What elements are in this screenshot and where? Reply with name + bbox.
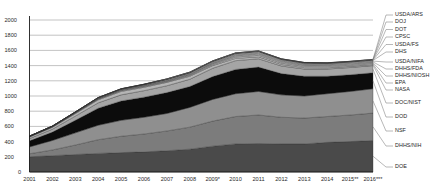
legend-item-dhhs-niosh[interactable]: DHHS/NIOSH xyxy=(395,73,429,78)
x-axis-tick-label: 2016*** xyxy=(364,176,384,182)
x-axis-tick-label: 2011 xyxy=(252,176,264,182)
legend-leader-line xyxy=(373,64,393,83)
legend-leader-line xyxy=(373,127,393,146)
legend-item-nsf[interactable]: NSF xyxy=(395,128,406,133)
x-axis-tick-label: 2007 xyxy=(161,176,173,182)
legend-item-dod[interactable]: DOD xyxy=(395,114,407,119)
y-axis-tick-label: 200 xyxy=(5,154,14,160)
legend-item-doe[interactable]: DOE xyxy=(395,164,407,169)
y-axis-tick-label: 400 xyxy=(5,139,14,145)
y-axis-tick-label: 1800 xyxy=(5,32,17,38)
y-axis-tick-label: 0 xyxy=(18,169,21,175)
legend-item-doc-nist[interactable]: DOC/NIST xyxy=(395,100,421,105)
x-axis-tick-label: 2005 xyxy=(115,176,127,182)
legend-leader-line xyxy=(373,61,393,62)
x-axis-tick-label: 2008 xyxy=(184,176,196,182)
x-axis-tick-label: 2009* xyxy=(205,176,220,182)
x-axis-tick-label: 2013 xyxy=(298,176,310,182)
legend-item-dot[interactable]: DOT xyxy=(395,27,407,32)
x-axis-tick-label: 2001 xyxy=(23,176,35,182)
y-axis-tick-label: 800 xyxy=(5,108,14,114)
y-axis-tick-label: 600 xyxy=(5,123,14,129)
x-axis-tick-label: 2002 xyxy=(46,176,58,182)
legend-item-usda-fs[interactable]: USDA/FS xyxy=(395,42,419,47)
legend-item-usda-ars[interactable]: USDA/ARS xyxy=(395,12,423,17)
legend-leader-line xyxy=(373,81,393,117)
legend-leader-line xyxy=(373,63,393,76)
y-axis-tick-label: 1400 xyxy=(5,63,17,69)
x-axis-tick-label: 2003 xyxy=(69,176,81,182)
legend-item-dhs[interactable]: DHS xyxy=(395,49,407,54)
x-axis-tick-label: 2014 xyxy=(321,176,333,182)
legend-item-epa[interactable]: EPA xyxy=(395,80,406,85)
plot-area: 0200400600800100012001400160018002000200… xyxy=(0,0,442,194)
legend-item-doj[interactable]: DOJ xyxy=(395,19,406,24)
x-axis-tick-label: 2006 xyxy=(138,176,150,182)
x-axis-tick-label: 2015** xyxy=(342,176,360,182)
legend-leader-line xyxy=(373,101,393,131)
legend-item-cpsc[interactable]: CPSC xyxy=(395,34,410,39)
legend-item-dhhs-nih[interactable]: DHHS/NIH xyxy=(395,143,421,148)
x-axis-tick-label: 2010 xyxy=(229,176,241,182)
legend-leader-line xyxy=(373,69,393,103)
stacked-area-chart: 0200400600800100012001400160018002000200… xyxy=(0,0,442,194)
x-axis-tick-label: 2004 xyxy=(92,176,104,182)
y-axis-tick-label: 1200 xyxy=(5,78,17,84)
y-axis-tick-label: 1000 xyxy=(5,93,17,99)
legend-item-usda-nifa[interactable]: USDA/NIFA xyxy=(395,59,424,64)
x-axis-tick-label: 2012 xyxy=(275,176,287,182)
legend-item-nasa[interactable]: NASA xyxy=(395,87,410,92)
legend-leader-line xyxy=(373,156,393,167)
legend-item-dhhs-fda[interactable]: DHHS/FDA xyxy=(395,66,423,71)
y-axis-tick-label: 1600 xyxy=(5,47,17,53)
y-axis-tick-label: 2000 xyxy=(5,17,17,23)
